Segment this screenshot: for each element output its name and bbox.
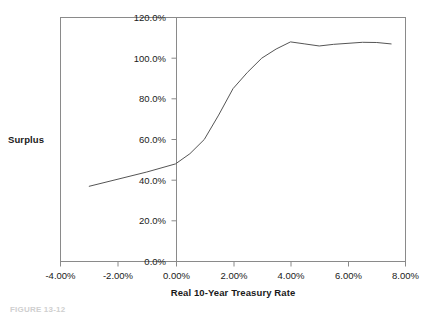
x-tick-label-neg2: -2.00% (85, 270, 152, 281)
x-axis-title: Real 10-Year Treasury Rate (60, 287, 406, 298)
chart-plot-area (0, 0, 436, 313)
y-tick-label-100: 100.0% (98, 53, 166, 64)
y-tick-label-0: 0.0% (98, 256, 166, 267)
y-tick-label-40: 40.0% (98, 175, 166, 186)
y-axis-title: Surplus (8, 134, 56, 145)
figure-caption: FIGURE 13-12 (10, 305, 65, 313)
y-axis-ticks (172, 18, 177, 262)
y-tick-label-60: 60.0% (98, 134, 166, 145)
figure-root: 120.0% 100.0% 80.0% 60.0% 40.0% 20.0% 0.… (0, 0, 436, 313)
y-tick-label-120: 120.0% (98, 12, 166, 23)
y-tick-label-80: 80.0% (98, 93, 166, 104)
x-tick-label-8: 8.00% (372, 270, 436, 281)
y-tick-label-20: 20.0% (98, 215, 166, 226)
